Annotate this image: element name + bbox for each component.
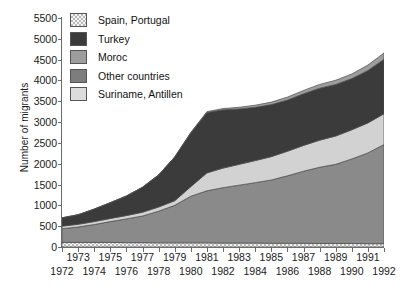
y-tick-label: 4000: [23, 75, 57, 85]
x-tick-label: 1985: [254, 252, 288, 263]
x-tick-mark: [62, 248, 63, 252]
x-tick-mark: [304, 248, 305, 252]
x-tick-mark: [223, 248, 224, 252]
x-tick-mark: [336, 248, 337, 252]
y-tick-label: 2000: [23, 159, 57, 169]
y-tick-label: 2500: [23, 138, 57, 148]
legend-label: Other countries: [98, 70, 170, 82]
y-tick-mark: [58, 18, 62, 19]
x-tick-label: 1977: [126, 252, 160, 263]
x-tick-mark: [320, 248, 321, 252]
x-tick-mark: [352, 248, 353, 252]
x-tick-label: 1974: [77, 266, 111, 277]
x-tick-mark: [271, 248, 272, 252]
y-axis-tick-labels: 5500500045004000350030002500200015001000…: [21, 0, 57, 289]
legend-label: Spain, Portugal: [98, 14, 170, 26]
x-tick-mark: [78, 248, 79, 252]
y-tick-label: 1000: [23, 200, 57, 210]
x-tick-label: 1975: [93, 252, 127, 263]
x-tick-mark: [110, 248, 111, 252]
legend-swatch-icon: [70, 13, 87, 27]
legend-item-3[interactable]: Other countries: [70, 67, 183, 86]
y-tick-mark: [58, 205, 62, 206]
y-tick-label: 3500: [23, 96, 57, 106]
x-tick-label: 1980: [174, 266, 208, 277]
y-tick-label: 1500: [23, 180, 57, 190]
x-tick-mark: [368, 248, 369, 252]
y-tick-mark: [58, 39, 62, 40]
x-tick-mark: [143, 248, 144, 252]
y-tick-label: 3000: [23, 117, 57, 127]
y-tick-mark: [58, 226, 62, 227]
x-tick-label: 1982: [206, 266, 240, 277]
x-tick-label: 1986: [270, 266, 304, 277]
x-tick-label: 1984: [238, 266, 272, 277]
legend-item-2[interactable]: Moroc: [70, 48, 183, 67]
x-tick-label: 1987: [287, 252, 321, 263]
x-tick-label: 1978: [142, 266, 176, 277]
x-tick-mark: [126, 248, 127, 252]
x-tick-label: 1976: [109, 266, 143, 277]
x-tick-label: 1979: [158, 252, 192, 263]
x-tick-label: 1981: [190, 252, 224, 263]
x-tick-mark: [94, 248, 95, 252]
legend-item-4[interactable]: Suriname, Antillen: [70, 85, 183, 104]
legend-label: Turkey: [98, 33, 130, 45]
x-tick-mark: [287, 248, 288, 252]
x-tick-label: 1972: [45, 266, 79, 277]
x-tick-label: 1991: [351, 252, 385, 263]
y-tick-label: 5000: [23, 34, 57, 44]
x-tick-label: 1973: [61, 252, 95, 263]
legend-item-1[interactable]: Turkey: [70, 30, 183, 49]
legend-swatch-icon: [70, 50, 87, 64]
y-tick-label: 500: [23, 221, 57, 231]
legend-swatch-icon: [70, 69, 87, 83]
y-tick-mark: [58, 143, 62, 144]
legend-swatch-icon: [70, 32, 87, 46]
legend-label: Suriname, Antillen: [98, 88, 183, 100]
y-tick-label: 4500: [23, 55, 57, 65]
legend-swatch-icon: [70, 87, 87, 101]
legend-item-0[interactable]: Spain, Portugal: [70, 11, 183, 30]
y-tick-mark: [58, 60, 62, 61]
x-tick-label: 1988: [303, 266, 337, 277]
y-tick-mark: [58, 101, 62, 102]
y-tick-mark: [58, 122, 62, 123]
x-tick-mark: [255, 248, 256, 252]
x-tick-mark: [191, 248, 192, 252]
x-tick-label: 1983: [222, 252, 256, 263]
y-tick-mark: [58, 185, 62, 186]
x-tick-mark: [175, 248, 176, 252]
legend-label: Moroc: [98, 51, 127, 63]
y-tick-mark: [58, 80, 62, 81]
y-tick-mark: [58, 164, 62, 165]
x-tick-label: 1989: [319, 252, 353, 263]
x-tick-label: 1992: [367, 266, 401, 277]
x-tick-label: 1990: [335, 266, 369, 277]
x-tick-mark: [384, 248, 385, 252]
x-tick-mark: [239, 248, 240, 252]
x-tick-mark: [159, 248, 160, 252]
chart-legend: Spain, PortugalTurkeyMorocOther countrie…: [70, 11, 183, 104]
y-tick-label: 5500: [23, 13, 57, 23]
migrants-stacked-area-chart: Number of migrants 550050004500400035003…: [0, 0, 406, 289]
x-tick-mark: [207, 248, 208, 252]
y-tick-label: 0: [23, 242, 57, 252]
